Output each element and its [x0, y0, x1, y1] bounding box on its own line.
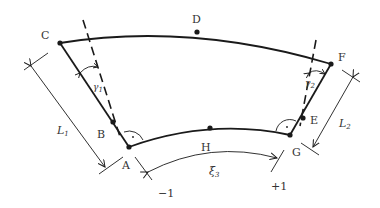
right-angle-mark-A	[124, 131, 143, 140]
point-E	[300, 115, 305, 120]
right-angle-dot-A	[132, 136, 134, 138]
point-B	[110, 119, 115, 124]
point-F	[328, 61, 333, 66]
label-minus-one: −1	[158, 187, 174, 200]
label-L2: L2	[338, 117, 351, 131]
gamma2-arc	[309, 71, 325, 74]
point-D	[194, 29, 199, 34]
label-F: F	[338, 51, 346, 64]
point-C	[57, 40, 62, 45]
L1-tick-top	[24, 53, 48, 70]
label-D: D	[192, 13, 201, 26]
point-H	[207, 125, 212, 130]
gamma1-arc	[80, 66, 98, 73]
point-G	[287, 132, 292, 137]
label-H: H	[201, 141, 211, 154]
xi3-tick-end	[271, 150, 284, 172]
label-xi3: ξ3	[209, 165, 220, 179]
right-angle-dot-G	[286, 126, 288, 128]
L1-tick-bottom	[99, 157, 123, 174]
L2-tick-bottom	[301, 143, 319, 155]
label-gamma1: γ1	[93, 82, 103, 94]
label-B: B	[97, 128, 105, 141]
label-G: G	[292, 146, 301, 159]
diagram-canvas: C D F B A H G E L1 L2 γ1 γ2 ξ3 −1 +1	[0, 0, 380, 208]
label-plus-one: +1	[271, 180, 287, 193]
top-edge-curve	[60, 36, 331, 64]
point-A	[126, 144, 131, 149]
L2-dimension-line	[313, 77, 353, 147]
label-E: E	[310, 114, 318, 127]
label-C: C	[41, 29, 49, 42]
label-A: A	[121, 159, 131, 172]
label-L1: L1	[56, 124, 69, 138]
xi3-tick-start	[135, 157, 152, 180]
